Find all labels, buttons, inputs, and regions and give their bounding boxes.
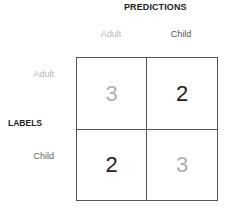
column-header-adult: Adult xyxy=(76,29,146,39)
row-header-child: Child xyxy=(0,151,54,161)
predictions-axis-title: PREDICTIONS xyxy=(124,2,187,12)
cell-adult-adult: 3 xyxy=(76,57,147,130)
cell-child-adult: 2 xyxy=(76,129,147,201)
column-header-child: Child xyxy=(146,29,216,39)
row-header-adult: Adult xyxy=(0,69,54,79)
cell-child-child: 3 xyxy=(146,129,218,201)
labels-axis-title: LABELS xyxy=(8,118,42,128)
confusion-matrix-grid: 3 2 2 3 xyxy=(76,57,218,201)
cell-adult-child: 2 xyxy=(146,57,218,130)
